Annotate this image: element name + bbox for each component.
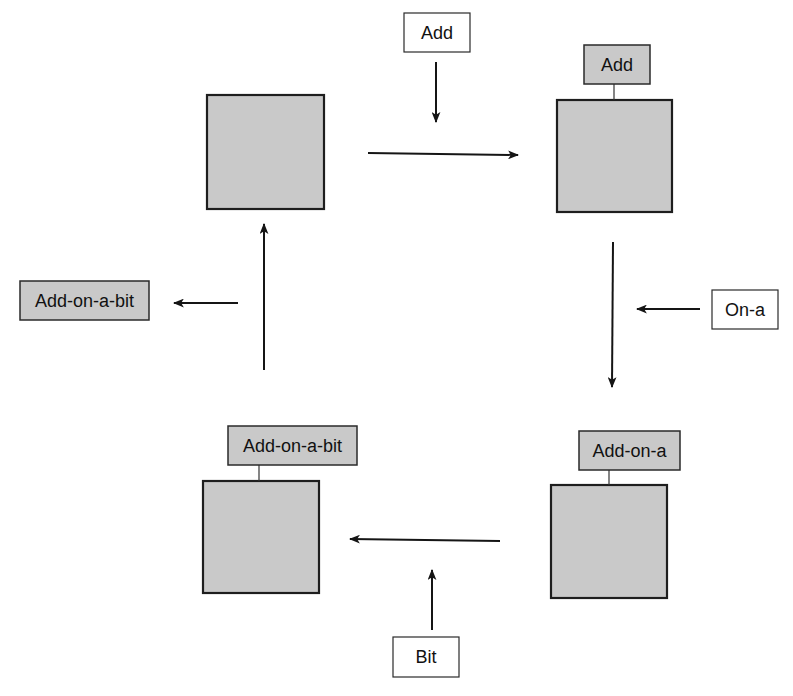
node-tag-text: Add-on-a-bit xyxy=(243,436,342,456)
input-label-bit: Bit xyxy=(393,637,459,677)
node-square-bottom-right xyxy=(551,485,667,598)
node-tag-text: Add-on-a xyxy=(592,441,667,461)
node-tag-bottom-right: Add-on-a xyxy=(579,431,680,470)
output-label: Add-on-a-bit xyxy=(20,281,149,320)
output-label-text: Add-on-a-bit xyxy=(35,291,134,311)
arrow-top-right-to-bottom-right xyxy=(612,242,613,387)
node-square-top-right xyxy=(557,100,672,212)
input-label-add: Add xyxy=(404,13,470,52)
input-label-on-a: On-a xyxy=(712,290,778,329)
node-square-top-left xyxy=(207,95,324,209)
input-label-text: On-a xyxy=(725,300,766,320)
node-tag-text: Add xyxy=(601,55,633,75)
node-tag-top-right: Add xyxy=(584,45,650,84)
node-square-bottom-left xyxy=(203,481,319,593)
input-label-text: Bit xyxy=(415,647,436,667)
cycle-diagram: Add Add-on-a Add-on-a-bit Add-on-a-bit A… xyxy=(0,0,793,696)
input-label-text: Add xyxy=(421,23,453,43)
node-tag-bottom-left: Add-on-a-bit xyxy=(228,426,357,465)
arrow-top-left-to-top-right xyxy=(368,153,518,155)
arrow-bottom-right-to-bottom-left xyxy=(350,539,500,541)
